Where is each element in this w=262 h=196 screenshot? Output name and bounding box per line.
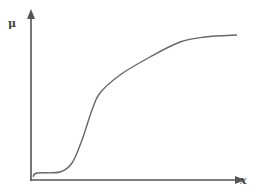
y-axis-arrow-icon [27,9,35,19]
x-axis-label: x [240,175,247,186]
y-axis-label: μ [8,18,16,29]
curve-series [33,35,237,177]
chart-canvas [0,0,262,196]
